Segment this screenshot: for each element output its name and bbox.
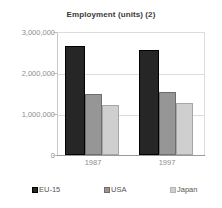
x-axis-tick-label-1987: 1987 (73, 158, 113, 167)
legend-swatch-icon-japan (170, 187, 176, 193)
y-axis-tick-label: 2,000,000 (3, 69, 55, 78)
bars-layer (57, 32, 205, 155)
bar-usa-1997[interactable] (159, 92, 176, 155)
bar-japan-1997[interactable] (176, 103, 193, 155)
bar-usa-1987[interactable] (85, 94, 102, 155)
y-axis-tick-label: 1,000,000 (3, 110, 55, 119)
bar-japan-1987[interactable] (102, 105, 119, 155)
legend-label-usa: USA (111, 185, 126, 194)
legend-label-eu15: EU-15 (39, 185, 60, 194)
chart-legend: EU-15 USA Japan (22, 185, 212, 197)
legend-label-japan: Japan (177, 185, 197, 194)
y-axis-tick-label: 0 (3, 151, 55, 160)
bar-eu15-1997[interactable] (139, 50, 159, 155)
legend-item-eu15[interactable]: EU-15 (32, 185, 60, 194)
legend-item-japan[interactable]: Japan (170, 185, 197, 194)
bar-eu15-1987[interactable] (65, 46, 85, 155)
x-axis-tick-label-1997: 1997 (147, 158, 187, 167)
legend-swatch-icon-eu15 (32, 187, 38, 193)
chart-container: Employment (units) (2) 3,000,000 2,000,0… (0, 0, 222, 208)
legend-swatch-icon-usa (104, 187, 110, 193)
x-axis-baseline (57, 155, 205, 156)
y-axis: 3,000,000 2,000,000 1,000,000 0 (0, 0, 55, 208)
y-axis-tick-label: 3,000,000 (3, 28, 55, 37)
legend-item-usa[interactable]: USA (104, 185, 126, 194)
